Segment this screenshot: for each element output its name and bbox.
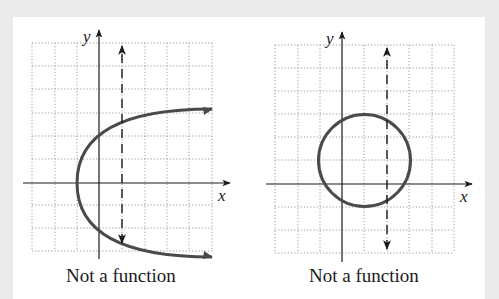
parabola-x-label: x (217, 186, 226, 205)
circle-y-label: y (324, 29, 334, 48)
circle-graph: x y (266, 29, 472, 262)
parabola-caption: Not a function (41, 265, 201, 287)
circle-x-label: x (459, 187, 468, 206)
vertical-line-test-figure: x y (0, 0, 499, 299)
parabola-graph: x y (23, 27, 230, 259)
parabola-y-label: y (81, 27, 91, 46)
circle-caption: Not a function (284, 265, 444, 287)
circle-grid (275, 45, 454, 253)
